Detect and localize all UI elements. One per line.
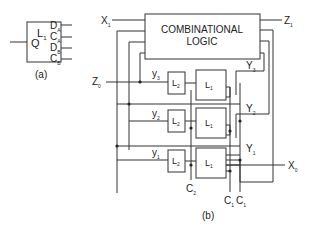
q-label: Q	[31, 37, 40, 49]
junction-dot	[228, 129, 231, 132]
y-out-wire-mid	[260, 41, 269, 114]
junction-dot	[138, 80, 141, 83]
logic-line1: COMBINATIONAL	[161, 24, 243, 35]
figure-b: COMBINATIONAL LOGIC X1 Z1 Y3 Y2 Y1 Z0	[92, 14, 298, 221]
z1-label: Z1	[284, 15, 293, 28]
y2-in-label: y2	[152, 108, 160, 121]
y2-wire	[236, 114, 269, 138]
x1-label: X1	[101, 15, 111, 28]
y1-out-label: Y1	[246, 143, 256, 156]
c1-label-a: C1	[224, 195, 234, 208]
junction-dot	[228, 169, 231, 172]
diagram-canvas: L1 Q DA CA DB CB (a) COMBINATIONAL LOGIC…	[0, 0, 317, 232]
junction-dot	[189, 126, 192, 129]
junction-dot	[238, 158, 241, 161]
caption-a: (a)	[35, 69, 47, 80]
y-out-wire-inner	[260, 53, 264, 71]
y3-in-label: y3	[152, 68, 160, 81]
figure-a: L1 Q DA CA DB CB (a)	[10, 20, 72, 80]
caption-b: (b)	[202, 210, 214, 221]
logic-line2: LOGIC	[186, 36, 217, 47]
z0-label: Z0	[92, 76, 101, 89]
feedback-wire-3	[140, 53, 145, 82]
junction-dot	[115, 144, 118, 147]
x0-label: X0	[288, 160, 298, 173]
y1-wire	[240, 160, 273, 182]
junction-dot	[127, 102, 130, 105]
junction-dot	[189, 163, 192, 166]
y1-in-label: y1	[152, 147, 160, 160]
junction-dot	[238, 119, 241, 122]
c2-label: C2	[186, 183, 196, 196]
c1-label-b: C1	[236, 195, 246, 208]
latch-pin	[226, 87, 230, 97]
feedback-wire-1	[117, 31, 145, 193]
feedback-wire-2	[129, 42, 145, 150]
